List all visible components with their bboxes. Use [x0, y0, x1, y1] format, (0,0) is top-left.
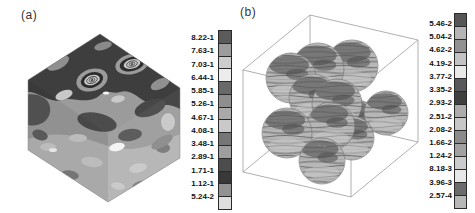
- legend-level-label: 5.24-2: [168, 192, 214, 201]
- legend-level-label: 2.51-2: [404, 112, 452, 121]
- colorbar-segment: [219, 171, 231, 184]
- figure: (a): [0, 0, 475, 213]
- colorbar-segment: [455, 104, 466, 117]
- colorbar-segment: [219, 183, 231, 196]
- colorbar-segment: [455, 65, 466, 78]
- colorbar-segment: [455, 26, 466, 39]
- legend-level-label: 4.08-1: [168, 126, 214, 135]
- colorbar-segment: [455, 91, 466, 104]
- legend-labels-b: 5.46-25.04-24.62-24.19-23.77-23.35-22.93…: [404, 19, 452, 200]
- colorbar-segment: [455, 130, 466, 143]
- legend-level-label: 1.71-1: [168, 166, 214, 175]
- colorbar-a: [218, 30, 232, 210]
- legend-level-label: 1.24-2: [404, 151, 452, 160]
- colorbar-segment: [455, 117, 466, 130]
- colorbar-segment: [219, 132, 231, 145]
- legend-level-label: 3.48-1: [168, 139, 214, 148]
- legend-level-label: 5.46-2: [404, 19, 452, 28]
- colorbar-segment: [219, 68, 231, 81]
- colorbar-segment: [455, 39, 466, 52]
- legend-level-label: 1.12-1: [168, 179, 214, 188]
- legend-labels-a: 8.22-17.63-17.03-16.44-15.85-15.26-14.67…: [168, 33, 214, 201]
- colorbar-segment: [219, 145, 231, 158]
- colorbar-segment: [219, 107, 231, 120]
- legend-level-label: 3.77-2: [404, 72, 452, 81]
- colorbar-segment: [455, 14, 466, 26]
- colorbar-segment: [219, 119, 231, 132]
- legend-level-label: 1.66-2: [404, 138, 452, 147]
- colorbar-segment: [455, 52, 466, 65]
- legend-level-label: 8.22-1: [168, 33, 214, 42]
- legend-level-label: 4.67-1: [168, 113, 214, 122]
- colorbar-segment: [219, 43, 231, 56]
- legend-level-label: 6.44-1: [168, 73, 214, 82]
- legend-level-label: 2.89-1: [168, 152, 214, 161]
- legend-level-label: 7.63-1: [168, 46, 214, 55]
- colorbar-segment: [219, 196, 231, 209]
- legend-level-label: 3.96-3: [404, 178, 452, 187]
- colorbar-b: [454, 13, 467, 209]
- colorbar-segment: [455, 182, 466, 195]
- legend-level-label: 3.35-2: [404, 85, 452, 94]
- colorbar-segment: [219, 81, 231, 94]
- colorbar-segment: [455, 156, 466, 169]
- legend-level-label: 4.62-2: [404, 45, 452, 54]
- colorbar-segment: [219, 94, 231, 107]
- legend-level-label: 2.93-2: [404, 98, 452, 107]
- legend-level-label: 5.04-2: [404, 32, 452, 41]
- legend-level-label: 7.03-1: [168, 60, 214, 69]
- colorbar-segment: [455, 169, 466, 182]
- cube-contour-surface: [20, 25, 190, 210]
- colorbar-segment: [219, 56, 231, 69]
- legend-level-label: 5.85-1: [168, 86, 214, 95]
- sphere-layer: [262, 40, 408, 184]
- colorbar-segment: [455, 143, 466, 156]
- colorbar-segment: [219, 31, 231, 43]
- colorbar-segment: [455, 195, 466, 208]
- colorbar-segment: [455, 78, 466, 91]
- legend-level-label: 2.08-2: [404, 125, 452, 134]
- legend-level-label: 2.57-4: [404, 191, 452, 200]
- legend-level-label: 5.26-1: [168, 99, 214, 108]
- legend-level-label: 4.19-2: [404, 59, 452, 68]
- legend-level-label: 8.18-3: [404, 164, 452, 173]
- colorbar-segment: [219, 158, 231, 171]
